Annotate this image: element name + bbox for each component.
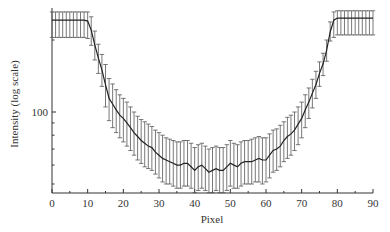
chart-container: 0102030405060708090100 Pixel Intensity (…: [0, 0, 390, 232]
x-tick-label: 0: [49, 197, 55, 209]
x-tick-label: 90: [368, 197, 380, 209]
x-tick-label: 40: [189, 197, 201, 209]
x-tick-label: 70: [296, 197, 308, 209]
x-tick-label: 60: [261, 197, 273, 209]
y-tick-label: 100: [32, 106, 49, 118]
x-axis-label: Pixel: [201, 213, 224, 225]
x-tick-label: 10: [82, 197, 94, 209]
x-tick-label: 80: [332, 197, 344, 209]
x-tick-label: 30: [154, 197, 166, 209]
x-tick-label: 50: [225, 197, 237, 209]
error-bars: [50, 11, 375, 193]
x-tick-label: 20: [118, 197, 130, 209]
plot-area: 0102030405060708090100 Pixel Intensity (…: [0, 0, 390, 232]
y-axis-label: Intensity (log scale): [8, 60, 21, 148]
